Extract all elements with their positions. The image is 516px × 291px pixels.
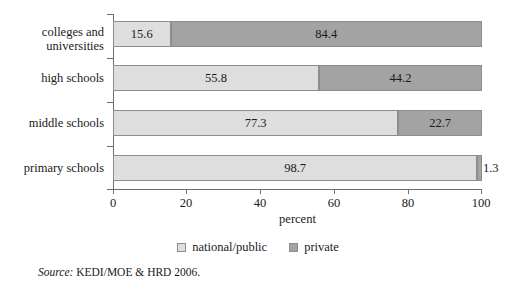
bar-row-colleges-and-universities: 15.6 84.4: [113, 21, 482, 47]
x-axis-tick: [481, 189, 482, 194]
category-label-line: universities: [0, 39, 104, 53]
bar-segment-public: 77.3: [113, 110, 398, 136]
x-axis-tick: [408, 189, 409, 194]
legend-item-national-public: national/public: [177, 240, 267, 255]
x-axis-title: percent: [113, 212, 482, 227]
x-axis-tick-label: 0: [93, 196, 133, 210]
bar-segment-public: 98.7: [113, 155, 477, 181]
category-label-primary-schools: primary schools: [0, 161, 104, 175]
x-axis-tick: [113, 189, 114, 194]
bar-segment-private: 22.7: [398, 110, 482, 136]
x-axis-tick-label: 100: [461, 196, 501, 210]
stacked-bar-chart: colleges and universities high schools m…: [0, 0, 516, 200]
y-axis-tick: [107, 146, 113, 147]
x-axis-tick-label: 20: [166, 196, 206, 210]
bar-value-label: 77.3: [245, 116, 267, 131]
legend-label: national/public: [192, 240, 267, 255]
bar-segment-public: 15.6: [113, 21, 171, 47]
bar-row-high-schools: 55.8 44.2: [113, 65, 482, 91]
bar-row-primary-schools: 98.7 1.3: [113, 155, 482, 181]
category-label-line: middle schools: [0, 116, 104, 130]
x-axis-tick: [260, 189, 261, 194]
category-label-colleges-and-universities: colleges and universities: [0, 25, 104, 53]
x-axis-tick-label: 40: [240, 196, 280, 210]
x-axis-tick: [186, 189, 187, 194]
x-axis-tick-label: 80: [388, 196, 428, 210]
bar-segment-private: 1.3: [477, 155, 482, 181]
bar-value-label-outside: 1.3: [481, 161, 499, 176]
y-axis-tick: [107, 102, 113, 103]
x-axis-tick-label: 60: [314, 196, 354, 210]
bar-segment-public: 55.8: [113, 65, 319, 91]
bar-value-label: 84.4: [315, 27, 337, 42]
category-label-line: primary schools: [0, 161, 104, 175]
category-label-high-schools: high schools: [0, 71, 104, 85]
bar-segment-private: 44.2: [319, 65, 482, 91]
source-prefix: Source:: [38, 266, 73, 278]
bar-value-label: 22.7: [429, 116, 451, 131]
bar-value-label: 98.7: [284, 161, 306, 176]
bar-row-middle-schools: 77.3 22.7: [113, 110, 482, 136]
bar-segment-private: 84.4: [171, 21, 483, 47]
source-text: KEDI/MOE & HRD 2006.: [76, 266, 200, 278]
category-label-line: colleges and: [0, 25, 104, 39]
bar-value-label: 15.6: [131, 27, 153, 42]
x-axis-tick: [334, 189, 335, 194]
legend-label: private: [304, 240, 339, 255]
y-axis-tick: [107, 14, 113, 15]
bar-value-label: 44.2: [390, 71, 412, 86]
bar-value-label: 55.8: [205, 71, 227, 86]
x-axis-line: [113, 189, 482, 190]
category-label-line: high schools: [0, 71, 104, 85]
source-note: Source: KEDI/MOE & HRD 2006.: [38, 266, 200, 278]
y-axis-tick: [107, 58, 113, 59]
chart-legend: national/public private: [0, 240, 516, 255]
category-label-middle-schools: middle schools: [0, 116, 104, 130]
legend-swatch-icon: [177, 243, 186, 252]
legend-item-private: private: [289, 240, 339, 255]
legend-swatch-icon: [289, 243, 298, 252]
